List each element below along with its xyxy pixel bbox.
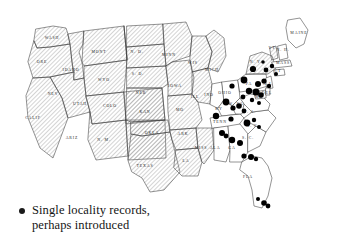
occurrence-dot bbox=[248, 154, 254, 160]
occurrence-dot bbox=[244, 120, 251, 127]
occurrence-dot bbox=[229, 137, 235, 143]
state-mont bbox=[82, 26, 127, 66]
state-sd bbox=[127, 44, 166, 68]
occurrence-dot bbox=[256, 197, 260, 201]
occurrence-dot bbox=[228, 116, 233, 121]
occurrence-dot bbox=[270, 64, 274, 68]
occurrence-dot bbox=[236, 103, 242, 109]
occurrence-dot bbox=[237, 140, 243, 146]
occurrence-dot bbox=[274, 72, 278, 76]
legend-label: Single locality records, perhaps introdu… bbox=[32, 203, 150, 232]
occurrence-dot bbox=[223, 99, 230, 106]
occurrence-dot bbox=[241, 153, 246, 158]
state-label-ariz: ARIZ bbox=[66, 136, 79, 140]
legend-symbol-wrap bbox=[16, 203, 32, 214]
state-neb bbox=[127, 66, 168, 88]
state-iowa bbox=[166, 60, 194, 96]
state-mass bbox=[272, 60, 292, 68]
state-kan bbox=[126, 88, 165, 122]
occurrence-dot bbox=[261, 78, 266, 83]
occurrence-dot bbox=[246, 88, 252, 94]
occurrence-dot bbox=[267, 84, 271, 88]
occurrence-dot bbox=[242, 109, 247, 114]
legend-dot-icon bbox=[19, 208, 25, 214]
occurrence-dot bbox=[266, 204, 271, 209]
occurrence-dot bbox=[241, 77, 248, 84]
occurrence-dot bbox=[261, 60, 265, 64]
state-maine bbox=[286, 18, 308, 48]
state-nh bbox=[278, 44, 288, 60]
states-layer bbox=[26, 18, 308, 208]
occurrence-dot bbox=[264, 68, 269, 73]
occurrence-dot bbox=[241, 95, 246, 100]
occurrence-dot bbox=[257, 125, 261, 129]
state-utah bbox=[86, 92, 126, 124]
state-la bbox=[174, 148, 202, 176]
occurrence-dot bbox=[213, 113, 219, 119]
occurrence-dot bbox=[257, 101, 261, 105]
occurrence-dot bbox=[229, 83, 234, 88]
occurrence-dot bbox=[230, 105, 235, 110]
occurrence-dot bbox=[250, 98, 254, 102]
state-fla bbox=[240, 156, 272, 208]
occurrence-dot bbox=[258, 92, 264, 98]
map-legend: Single locality records, perhaps introdu… bbox=[16, 203, 226, 237]
occurrence-dot bbox=[224, 134, 229, 139]
occurrence-dot bbox=[254, 157, 258, 161]
occurrence-dot bbox=[255, 81, 261, 87]
distribution-map-figure: WASHOREIDAHOMONTWYONEVUTAHCOLOCALIFARIZN… bbox=[0, 0, 339, 241]
occurrence-dot bbox=[250, 66, 256, 72]
occurrence-dot bbox=[252, 118, 256, 122]
state-minn bbox=[163, 22, 192, 66]
state-nd bbox=[127, 24, 164, 47]
state-ark bbox=[170, 128, 198, 150]
state-del bbox=[266, 88, 270, 95]
